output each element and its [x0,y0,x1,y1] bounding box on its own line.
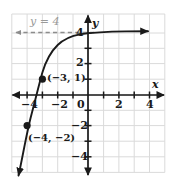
coordinate-plane-graph [0,0,176,183]
x-tick-label-neg4: −4 [21,99,38,110]
asymptote-label: y = 4 [30,16,59,27]
plotted-point-2 [24,122,31,129]
point-label-2: (−4, −2) [28,133,75,143]
plotted-point-1 [39,76,46,83]
x-tick-label-neg2: −2 [51,99,68,110]
point-label-1: (−3, 1) [47,73,86,83]
y-tick-label-neg2: −2 [71,120,88,131]
y-tick-label-4: 4 [76,27,84,38]
y-tick-label-neg4: −4 [71,151,88,162]
x-tick-label-4: 4 [146,99,154,110]
graph-screenshot: y = 4 y x 4 2 −2 −4 −4 −2 0 2 4 (−3, 1) … [0,0,176,183]
y-tick-label-2: 2 [76,57,84,68]
x-tick-label-0: 0 [77,99,85,110]
y-axis-label: y [92,18,98,29]
x-tick-label-2: 2 [115,99,123,110]
x-axis-label: x [152,79,159,90]
